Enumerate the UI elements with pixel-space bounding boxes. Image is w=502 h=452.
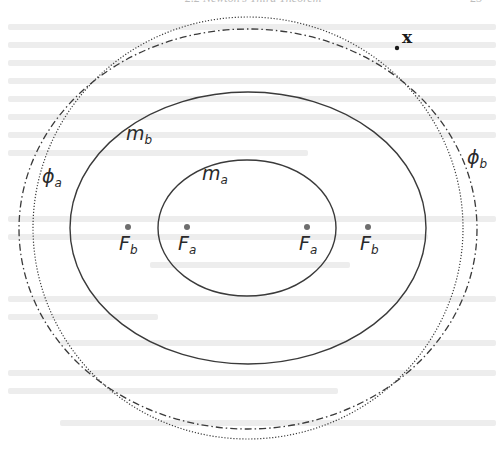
label-m-b-base: m bbox=[126, 122, 145, 144]
label-focus-a-right: Fa bbox=[299, 234, 317, 256]
equipotential-dotted-ellipse bbox=[33, 17, 463, 439]
label-phi-a-base: ϕ bbox=[42, 165, 55, 187]
focus-a-left-sub: a bbox=[189, 243, 196, 257]
label-m-b-sub: b bbox=[145, 133, 153, 147]
focus-b-right-sub: b bbox=[371, 243, 379, 257]
label-phi-b: ϕb bbox=[467, 148, 487, 170]
label-focus-b-right: Fb bbox=[360, 234, 379, 256]
label-focus-b-left: Fb bbox=[119, 234, 138, 256]
label-m-a-base: m bbox=[202, 162, 221, 184]
point-x-label: x bbox=[402, 29, 412, 46]
label-phi-b-base: ϕ bbox=[467, 146, 480, 168]
focus-b-right-base: F bbox=[360, 232, 371, 254]
focus-dot-outer-right bbox=[365, 224, 371, 230]
label-m-b: mb bbox=[126, 124, 152, 146]
point-x-marker bbox=[395, 46, 399, 50]
focus-dot-inner-left bbox=[184, 224, 190, 230]
label-m-a-sub: a bbox=[221, 173, 228, 187]
focus-b-left-base: F bbox=[119, 232, 130, 254]
label-phi-b-sub: b bbox=[480, 157, 488, 171]
ellipse-diagram bbox=[0, 0, 502, 452]
focus-a-left-base: F bbox=[178, 232, 189, 254]
equipotential-dashdot-ellipse bbox=[19, 29, 477, 429]
focus-a-right-sub: a bbox=[310, 243, 317, 257]
label-phi-a: ϕa bbox=[42, 167, 62, 189]
label-m-a: ma bbox=[202, 164, 228, 186]
outer-solid-ellipse bbox=[70, 92, 426, 364]
label-focus-a-left: Fa bbox=[178, 234, 196, 256]
focus-b-left-sub: b bbox=[130, 243, 138, 257]
focus-a-right-base: F bbox=[299, 232, 310, 254]
focus-dot-outer-left bbox=[125, 224, 131, 230]
focus-dot-inner-right bbox=[304, 224, 310, 230]
label-phi-a-sub: a bbox=[55, 176, 62, 190]
